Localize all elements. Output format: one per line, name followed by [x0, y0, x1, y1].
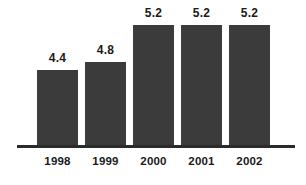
category-label-1999: 1999: [85, 155, 126, 167]
bar[interactable]: [181, 25, 222, 147]
bar[interactable]: [133, 25, 174, 147]
bar-value-label: 4.8: [97, 44, 114, 57]
bar-group-1: 4.8: [85, 0, 126, 147]
bar-value-label: 5.2: [145, 7, 162, 20]
plot-area: 4.4 4.8 5.2 5.2 5.2: [0, 0, 306, 147]
bar-group-4: 5.2: [229, 0, 270, 147]
bar-chart: 4.4 4.8 5.2 5.2 5.2 1998 1999 2000 2001 …: [0, 0, 306, 185]
category-label-2001: 2001: [181, 155, 222, 167]
category-label-2000: 2000: [133, 155, 174, 167]
x-axis-line: [17, 145, 295, 148]
category-axis: 1998 1999 2000 2001 2002: [0, 150, 306, 185]
bar[interactable]: [37, 70, 78, 147]
category-label-2002: 2002: [229, 155, 270, 167]
category-label-1998: 1998: [37, 155, 78, 167]
bar-group-3: 5.2: [181, 0, 222, 147]
bar[interactable]: [85, 62, 126, 147]
bar[interactable]: [229, 25, 270, 147]
bar-group-0: 4.4: [37, 0, 78, 147]
bar-value-label: 5.2: [241, 7, 258, 20]
bar-group-2: 5.2: [133, 0, 174, 147]
bar-value-label: 4.4: [49, 52, 66, 65]
bar-value-label: 5.2: [193, 7, 210, 20]
